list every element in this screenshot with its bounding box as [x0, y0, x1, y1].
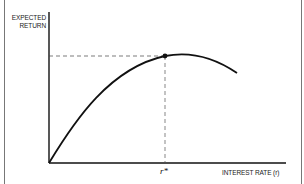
- y-axis-label-line1: EXPECTED: [8, 14, 46, 22]
- rstar-tick-label: r*: [160, 166, 168, 176]
- expected-return-curve: [49, 54, 237, 163]
- y-axis-label-line2: RETURN: [8, 22, 46, 30]
- maximum-point: [163, 54, 168, 59]
- x-axis-label: INTEREST RATE (r): [222, 169, 279, 176]
- y-axis-label: EXPECTED RETURN: [8, 14, 46, 30]
